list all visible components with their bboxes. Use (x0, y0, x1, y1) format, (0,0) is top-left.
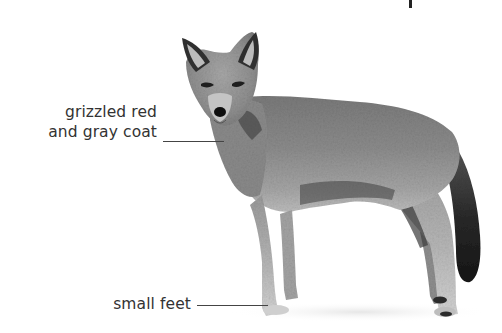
label-coat-line-2: and gray coat (48, 122, 157, 142)
front-paw (263, 305, 289, 315)
label-feet-line-1: small feet (113, 295, 191, 313)
nose (214, 107, 226, 117)
label-feet: small feet (113, 294, 191, 314)
coyote-figure: grizzled red and gray coat small feet (0, 0, 502, 333)
label-coat: grizzled red and gray coat (48, 102, 157, 142)
coyote-image (0, 0, 502, 333)
leader-line-feet (197, 305, 268, 306)
leader-line-coat (163, 141, 224, 142)
label-coat-line-1: grizzled red (48, 102, 157, 122)
